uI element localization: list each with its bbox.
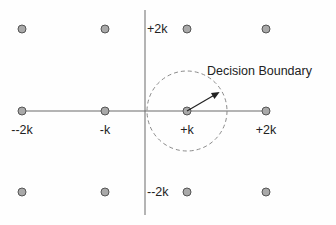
horizontal-tick-label: +k [180, 123, 194, 137]
horizontal-tick-label: +2k [256, 123, 277, 137]
constellation-point [18, 25, 26, 33]
constellation-point [183, 25, 191, 33]
constellation-point [101, 188, 109, 196]
constellation-point [101, 107, 109, 115]
constellation-point [18, 107, 26, 115]
vertical-tick-label: --2k [147, 185, 169, 199]
horizontal-tick-label: --2k [11, 123, 33, 137]
decision-boundary-arrow [187, 95, 215, 112]
diagram-canvas: --2k-k+k+2k+2k--2k Decision Boundary [0, 0, 336, 225]
arrow-head-icon [211, 92, 220, 99]
horizontal-tick-label: -k [100, 123, 111, 137]
constellation-point [262, 107, 270, 115]
constellation-point [262, 25, 270, 33]
constellation-point [262, 188, 270, 196]
constellation-point [18, 188, 26, 196]
constellation-diagram: --2k-k+k+2k+2k--2k Decision Boundary [0, 0, 336, 225]
constellation-point [183, 188, 191, 196]
vertical-tick-label: +2k [147, 22, 168, 36]
decision-boundary-label: Decision Boundary [207, 64, 313, 78]
constellation-point [101, 25, 109, 33]
